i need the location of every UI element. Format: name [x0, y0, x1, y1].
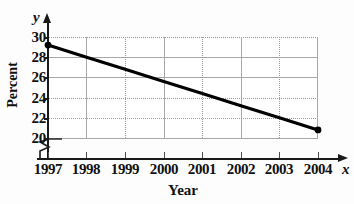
- x-tick-label-1999: 1999: [103, 162, 147, 177]
- x-axis-title: Year: [48, 183, 318, 198]
- x-tick-label-2001: 2001: [180, 162, 224, 177]
- y-axis-variable-label: y: [33, 10, 40, 25]
- x-tick-mark-2003: [279, 152, 280, 158]
- x-tick-mark-2002: [241, 152, 242, 158]
- x-tick-label-1998: 1998: [64, 162, 108, 177]
- line-chart-figure: 30 28 26 24 22 20 1997 1998 1999 2000 20…: [0, 0, 354, 204]
- x-tick-label-2004: 2004: [296, 162, 340, 177]
- x-tick-mark-2000: [164, 152, 165, 158]
- x-tick-label-2003: 2003: [257, 162, 301, 177]
- x-tick-mark-2001: [202, 152, 203, 158]
- x-axis-variable-label: x: [342, 162, 350, 177]
- x-tick-mark-1998: [86, 152, 87, 158]
- x-tick-mark-1999: [125, 152, 126, 158]
- y-axis-title: Percent: [6, 35, 20, 135]
- x-tick-mark-2004: [318, 152, 319, 158]
- x-axis-ticks: 1997 1998 1999 2000 2001 2002 2003 2004: [0, 0, 354, 204]
- x-tick-mark-1997: [48, 152, 49, 158]
